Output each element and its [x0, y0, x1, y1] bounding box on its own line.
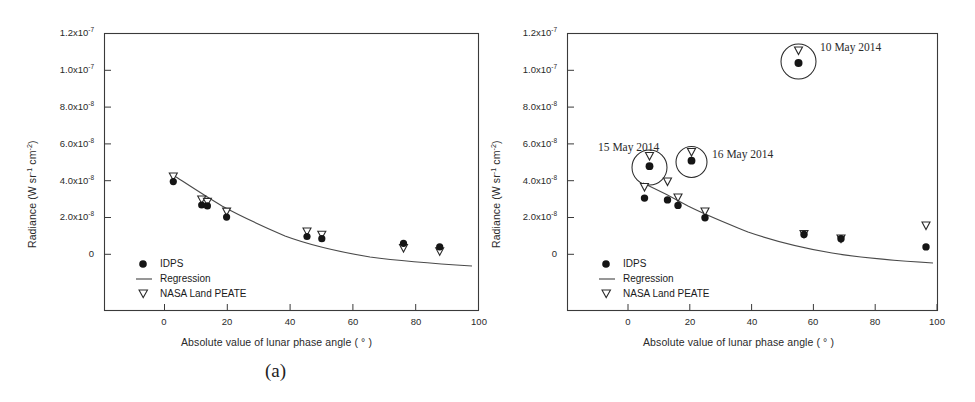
annotation-16-may-2014: 16 May 2014 [712, 148, 773, 160]
legend-idps-marker-a [139, 260, 147, 268]
legend-label-regression-b: Regression [623, 273, 674, 284]
panel-caption-a: (a) [265, 360, 286, 382]
x-tick-label-b-1: 20 [670, 316, 710, 327]
legend-label-idps-a: IDPS [160, 258, 183, 269]
x-tick-label-b-2: 40 [732, 316, 772, 327]
x-axis-title-b: Absolute value of lunar phase angle ( ° … [643, 336, 834, 348]
y-tick-label-b-1: 1.0x10-7 [495, 64, 557, 75]
idps-markers-a [170, 178, 444, 250]
y-tick-label-a-4: 4.0x10-8 [32, 175, 94, 186]
y-axis-title-a: Radiance (W sr-1 cm-2) [26, 140, 38, 248]
legend-label-peate-b: NASA Land PEATE [623, 288, 710, 299]
panel-b: 1.2x10-7 1.0x10-7 8.0x10-8 6.0x10-8 4.0x… [490, 0, 975, 402]
y-tick-label-a-0: 1.2x10-7 [32, 27, 94, 38]
x-ticks-b [628, 304, 937, 311]
regression-curve-a [173, 175, 472, 266]
x-tick-label-a-4: 80 [396, 316, 436, 327]
x-tick-label-a-0: 0 [144, 316, 184, 327]
y-tick-label-b-4: 4.0x10-8 [495, 175, 557, 186]
y-tick-label-b-0: 1.2x10-7 [495, 27, 557, 38]
legend-idps-marker-b [602, 260, 610, 268]
legend-label-regression-a: Regression [160, 273, 211, 284]
y-axis-title-b: Radiance (W sr-1 cm-2) [490, 140, 502, 248]
y-tick-label-a-3: 6.0x10-8 [32, 138, 94, 149]
y-tick-label-a-1: 1.0x10-7 [32, 64, 94, 75]
x-tick-label-a-3: 60 [333, 316, 373, 327]
legend-label-idps-b: IDPS [623, 258, 646, 269]
y-tick-label-b-5: 2.0x10-8 [495, 211, 557, 222]
y-ticks-a [105, 34, 112, 255]
idps-markers-b [641, 59, 930, 251]
x-tick-label-b-4: 80 [855, 316, 895, 327]
y-tick-label-b-2: 8.0x10-8 [495, 101, 557, 112]
legend-peate-marker-a [139, 290, 148, 298]
x-axis-title-a: Absolute value of lunar phase angle ( ° … [181, 336, 372, 348]
regression-curve-b [643, 183, 933, 263]
annotation-10-may-2014: 10 May 2014 [820, 41, 881, 53]
x-ticks-a [165, 304, 479, 311]
y-tick-label-a-2: 8.0x10-8 [32, 101, 94, 112]
x-tick-label-b-5: 100 [917, 316, 957, 327]
x-tick-label-a-2: 40 [270, 316, 310, 327]
x-tick-label-b-3: 60 [793, 316, 833, 327]
x-tick-label-a-1: 20 [207, 316, 247, 327]
legend-label-peate-a: NASA Land PEATE [160, 288, 247, 299]
figure-root: 1.2x10-7 1.0x10-7 8.0x10-8 6.0x10-8 4.0x… [0, 0, 975, 402]
legend-peate-marker-b [602, 290, 611, 298]
annotation-15-may-2014: 15 May 2014 [598, 141, 659, 153]
panel-a: 1.2x10-7 1.0x10-7 8.0x10-8 6.0x10-8 4.0x… [0, 0, 490, 402]
y-tick-label-b-6: 0 [495, 248, 557, 259]
y-ticks-b [568, 34, 575, 255]
x-tick-label-b-0: 0 [608, 316, 648, 327]
y-tick-label-a-6: 0 [32, 248, 94, 259]
y-tick-label-b-3: 6.0x10-8 [495, 138, 557, 149]
y-tick-label-a-5: 2.0x10-8 [32, 211, 94, 222]
peate-markers-b [641, 47, 931, 243]
highlight-circles-b [632, 44, 816, 185]
